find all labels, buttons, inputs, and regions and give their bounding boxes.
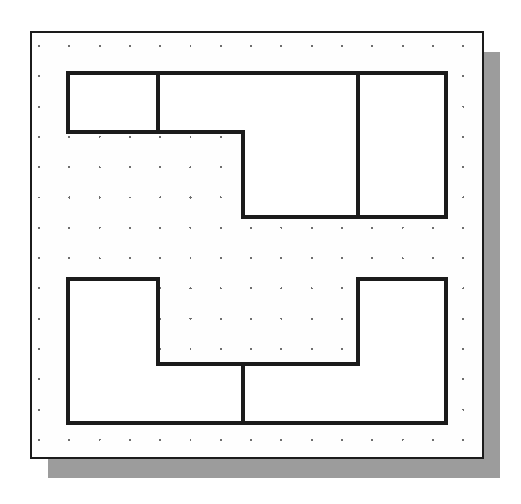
grid-dot: [38, 439, 40, 441]
grid-dot: [189, 257, 191, 259]
grid-dot: [220, 257, 222, 259]
grid-dot: [250, 257, 252, 259]
grid-dot: [99, 227, 101, 229]
grid-dot: [371, 227, 373, 229]
grid-dot: [432, 227, 434, 229]
grid-dot: [129, 136, 131, 138]
grid-dot: [38, 318, 40, 320]
grid-dot: [68, 439, 70, 441]
grid-dot: [462, 439, 464, 441]
grid-dot: [341, 227, 343, 229]
grid-dot: [341, 348, 343, 350]
grid-dot: [280, 318, 282, 320]
grid-dot: [341, 257, 343, 259]
drawing-surface[interactable]: [0, 0, 521, 504]
grid-dot: [432, 45, 434, 47]
sketch-drawing-canvas[interactable]: [0, 0, 521, 504]
grid-dot: [462, 136, 464, 138]
grid-dot: [311, 348, 313, 350]
grid-dot: [68, 45, 70, 47]
grid-dot: [220, 348, 222, 350]
grid-dot: [250, 227, 252, 229]
grid-dot: [159, 257, 161, 259]
grid-dot: [99, 166, 101, 168]
grid-dot: [189, 196, 191, 198]
grid-dot: [311, 257, 313, 259]
grid-dot: [189, 136, 191, 138]
grid-dot: [402, 45, 404, 47]
grid-dot: [38, 348, 40, 350]
grid-dot: [402, 439, 404, 441]
grid-dot: [250, 318, 252, 320]
grid-dot: [220, 439, 222, 441]
grid-dot: [38, 257, 40, 259]
grid-dot: [68, 257, 70, 259]
grid-dot: [129, 196, 131, 198]
grid-dot: [462, 75, 464, 77]
grid-dot: [189, 439, 191, 441]
grid-dot: [38, 227, 40, 229]
grid-dot: [280, 287, 282, 289]
grid-dot: [341, 287, 343, 289]
grid-dot: [280, 45, 282, 47]
grid-dot: [402, 227, 404, 229]
grid-dot: [462, 348, 464, 350]
grid-dot: [280, 439, 282, 441]
grid-dot: [189, 227, 191, 229]
grid-dot: [432, 257, 434, 259]
grid-dot: [462, 378, 464, 380]
grid-dot: [159, 45, 161, 47]
grid-dot: [462, 227, 464, 229]
grid-dot: [341, 45, 343, 47]
grid-dot: [68, 227, 70, 229]
grid-dot: [371, 439, 373, 441]
grid-dot: [38, 75, 40, 77]
grid-dot: [99, 136, 101, 138]
grid-dot: [129, 166, 131, 168]
grid-dot: [159, 227, 161, 229]
grid-dot: [38, 45, 40, 47]
grid-dot: [220, 318, 222, 320]
grid-dot: [159, 439, 161, 441]
grid-dot: [280, 348, 282, 350]
grid-dot: [432, 439, 434, 441]
grid-dot: [462, 106, 464, 108]
grid-dot: [99, 257, 101, 259]
grid-dot: [38, 287, 40, 289]
grid-dot: [38, 136, 40, 138]
grid-dot: [341, 318, 343, 320]
grid-dot: [371, 257, 373, 259]
grid-dot: [250, 45, 252, 47]
grid-dot: [220, 45, 222, 47]
grid-dot: [99, 196, 101, 198]
grid-dot: [159, 136, 161, 138]
grid-dot: [189, 318, 191, 320]
grid-dot: [129, 439, 131, 441]
grid-dot: [129, 227, 131, 229]
grid-dot: [159, 196, 161, 198]
grid-dot: [220, 136, 222, 138]
grid-dot: [220, 227, 222, 229]
grid-dot: [68, 166, 70, 168]
grid-dot: [220, 166, 222, 168]
grid-dot: [38, 378, 40, 380]
grid-dot: [311, 439, 313, 441]
grid-dot: [38, 409, 40, 411]
grid-dot: [462, 257, 464, 259]
grid-dot: [68, 196, 70, 198]
grid-dot: [129, 45, 131, 47]
grid-dot: [220, 196, 222, 198]
grid-dot: [99, 45, 101, 47]
grid-dot: [189, 348, 191, 350]
grid-dot: [280, 227, 282, 229]
grid-dot: [371, 45, 373, 47]
grid-dot: [68, 136, 70, 138]
grid-dot: [280, 257, 282, 259]
grid-dot: [311, 45, 313, 47]
grid-dot: [462, 166, 464, 168]
grid-dot: [311, 287, 313, 289]
grid-dot: [462, 318, 464, 320]
grid-dot: [462, 287, 464, 289]
grid-dot: [220, 287, 222, 289]
grid-dot: [311, 318, 313, 320]
